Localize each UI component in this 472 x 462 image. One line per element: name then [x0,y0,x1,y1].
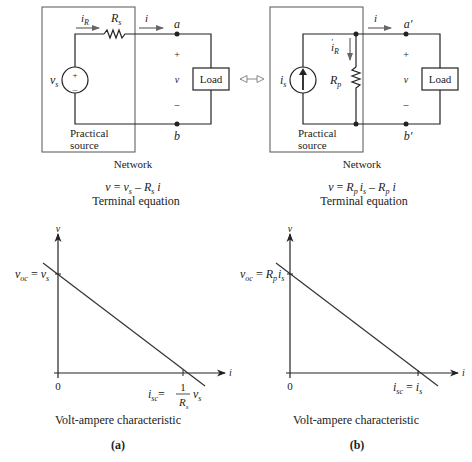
isc-label: isc = is [393,380,422,396]
resistor-rp [352,67,360,90]
origin-label: 0 [55,380,61,392]
circuit-b: is iR′ Rp i a′ b′ + v – Load Practical s… [270,7,458,152]
x-axis-label: i [462,367,465,378]
y-axis-label: v [56,223,61,234]
source-plus: + [72,70,77,80]
figure-canvas: + – vs iR Rs i a b + v – Load Practical … [0,0,472,462]
characteristic-line [43,263,205,386]
y-axis-label: v [288,223,293,234]
isc-rhs: vs [193,387,201,403]
terminal-minus: – [174,99,181,110]
voc-label: voc = Rpis [240,267,284,283]
characteristic-line [276,263,438,386]
terminal-equation-caption-a: Terminal equation [92,194,179,208]
resistor-label-rp: Rp [329,73,341,89]
x-axis-label: i [229,367,232,378]
load-label-a: Load [200,73,223,85]
terminal-voltage: v [404,74,409,85]
node-a-prime-label: a′ [404,17,413,31]
network-label-a: Network [114,158,153,170]
node-b-label: b [174,129,180,143]
practical-source-label: Practical [298,127,336,139]
node-a-label: a [174,17,180,31]
terminal-minus: – [403,99,410,110]
fraction-numerator: 1 [180,381,186,393]
isc-label: isc= [148,387,165,403]
node-a-prime [404,32,409,37]
network-label-b: Network [343,158,382,170]
practical-source-label: source [298,139,327,151]
terminal-plus: + [174,49,180,60]
origin-label: 0 [287,380,293,392]
wire-a [75,90,211,124]
junction-bottom [354,122,359,127]
circuit-a: + – vs iR Rs i a b + v – Load Practical … [42,7,229,152]
wire-a [75,34,104,67]
resistor-label-rs: Rs [110,11,121,27]
practical-source-label: source [70,139,99,151]
graph-caption-a: Volt-ampere characteristic [55,413,181,427]
resistor-rs [104,30,127,38]
voc-label: voc = vs [15,267,49,283]
panel-label-a: (a) [111,438,125,452]
node-b-prime [404,122,409,127]
current-label-ir-prime: iR′ [331,38,339,56]
terminal-equation-caption-b: Terminal equation [320,194,407,208]
graph-caption-b: Volt-ampere characteristic [293,413,419,427]
terminal-plus: + [403,49,409,60]
source-label: vs [50,73,58,89]
double-headed-arrow-icon [240,76,264,83]
current-label-ir: iR [81,12,89,27]
wire-b [303,90,440,124]
va-characteristic-a: v i 0 voc = vs isc= 1 Rs vs [15,223,232,411]
node-b-prime-label: b′ [404,129,413,143]
junction-top [354,32,359,37]
wire-a [127,34,211,68]
node-a [175,32,180,37]
terminal-voltage: v [175,74,180,85]
terminal-current-label: i [145,12,148,24]
node-b [175,122,180,127]
va-characteristic-b: v i 0 voc = Rpis isc = is [240,223,465,396]
terminal-current-label: i [374,12,377,24]
panel-label-b: (b) [350,438,365,452]
practical-source-label: Practical [70,127,108,139]
fraction-denominator: Rs [178,396,189,411]
source-minus: – [72,84,78,94]
source-label: is [280,73,286,89]
load-label-b: Load [429,73,452,85]
wire-b [303,34,440,68]
